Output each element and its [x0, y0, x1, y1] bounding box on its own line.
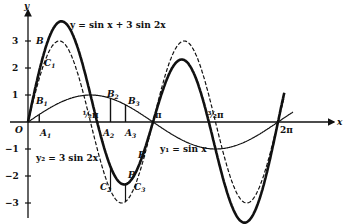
y-tick-label: −1 — [5, 144, 19, 154]
sum-curve-label: y = sin x + 3 sin 2x — [69, 20, 166, 30]
point-label-a2: A2 — [102, 128, 114, 139]
y-tick-label: 3 — [12, 36, 18, 46]
x-axis-label: x — [336, 117, 343, 127]
point-label-b: B — [137, 150, 146, 160]
point-label-c1: C1 — [44, 58, 55, 69]
y-tick-label: 2 — [12, 63, 18, 73]
point-label-b3: B3 — [127, 96, 140, 107]
point-label-a3: A3 — [124, 128, 136, 139]
point-label-b1: B1 — [35, 96, 48, 107]
y-tick-label: −2 — [5, 171, 19, 181]
origin-label: O — [15, 125, 23, 135]
point-label-c3: C3 — [134, 182, 145, 193]
y-axis-label: y — [23, 1, 30, 11]
sine-addition-diagram: x y O 321−1−2−3½ππ³⁄₂π2π y = sin x + 3 s… — [0, 0, 344, 224]
y1-curve-label: y₁ = sin x — [159, 144, 207, 154]
point-label-c2: C2 — [100, 182, 111, 193]
x-tick-label: 2π — [280, 125, 293, 135]
y-tick-label: 1 — [12, 90, 18, 100]
x-tick-label: ³⁄₂π — [208, 110, 224, 120]
point-label-b: B — [127, 170, 136, 180]
point-label-b2: B2 — [106, 89, 119, 100]
point-label-a1: A1 — [39, 128, 51, 139]
point-label-b: B — [35, 36, 44, 46]
y2-curve-label: y₂ = 3 sin 2x — [35, 153, 99, 163]
y-tick-label: −3 — [5, 198, 19, 208]
